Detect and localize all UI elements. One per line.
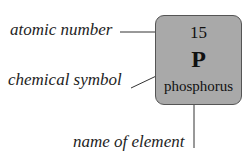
element-name: phosphorus — [156, 79, 241, 94]
element-tile: 15 P phosphorus — [155, 15, 242, 105]
chemical-symbol-label: chemical symbol — [8, 71, 122, 88]
atomic-number-label: atomic number — [10, 21, 112, 38]
chemical-symbol: P — [156, 47, 241, 71]
element-name-label: name of element — [73, 133, 184, 150]
atomic-number: 15 — [156, 24, 241, 41]
